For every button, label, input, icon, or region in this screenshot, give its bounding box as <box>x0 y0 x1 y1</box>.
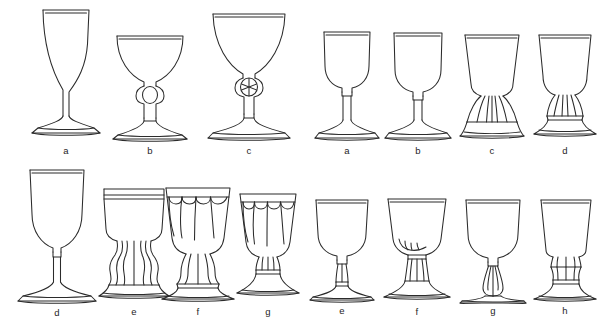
glass-figure-1f: c <box>456 30 528 156</box>
glass-drawing-fluted-stem-f2 <box>379 195 455 305</box>
glass-figure-2c: f <box>158 184 238 317</box>
glass-drawing-small-wine-e2 <box>306 196 378 304</box>
glass-caption: g <box>490 306 495 316</box>
glass-figure-2f: f <box>379 195 455 317</box>
glass-caption: d <box>54 308 59 318</box>
glass-drawing-petal-goblet-f <box>158 184 238 305</box>
glass-drawing-baluster-g2 <box>456 196 530 304</box>
glass-drawing-small-wine-b <box>382 28 454 144</box>
glass-drawing-knopped-goblet <box>204 8 294 144</box>
glass-caption: a <box>344 146 349 156</box>
glass-caption: c <box>247 146 252 156</box>
glass-figure-2a: d <box>14 164 100 318</box>
glass-caption: e <box>131 307 136 317</box>
glass-caption: c <box>490 146 495 156</box>
glass-figure-2e: e <box>306 196 378 316</box>
glass-figure-2g: g <box>456 196 530 316</box>
glass-figure-2h: h <box>529 196 601 316</box>
glass-caption: b <box>147 146 152 156</box>
glass-figure-1c: c <box>204 8 294 156</box>
glass-figure-2d: g <box>229 190 307 317</box>
glass-row-2: d e <box>0 160 603 323</box>
glass-caption: f <box>197 307 200 317</box>
glass-figure-1g: d <box>529 30 601 156</box>
glass-figure-1e: b <box>382 28 454 156</box>
glass-caption: a <box>63 146 68 156</box>
glass-drawing-tall-goblet-d <box>14 164 100 306</box>
glass-drawing-petal-goblet-g <box>229 190 307 305</box>
glass-figure-1d: a <box>312 26 382 156</box>
illustration-plate: a b <box>0 0 603 323</box>
glass-caption: e <box>339 306 344 316</box>
glass-drawing-coupe <box>108 22 192 144</box>
glass-drawing-rummer-c <box>456 30 528 144</box>
glass-figure-1b: b <box>108 22 192 156</box>
glass-drawing-rummer-d <box>529 30 601 144</box>
glass-caption: g <box>265 307 270 317</box>
glass-caption: f <box>416 307 419 317</box>
glass-row-1: a b <box>0 0 603 161</box>
glass-drawing-small-wine-a <box>312 26 382 144</box>
glass-drawing-dram-h <box>529 196 601 304</box>
glass-caption: h <box>562 306 567 316</box>
glass-caption: d <box>562 146 567 156</box>
glass-drawing-tall-wine <box>24 4 108 144</box>
glass-caption: b <box>415 146 420 156</box>
glass-figure-1a: a <box>24 4 108 156</box>
